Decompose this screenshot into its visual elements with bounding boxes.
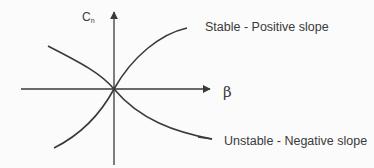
stable-curve xyxy=(54,28,187,148)
y-axis-label: Cn xyxy=(82,11,95,24)
x-axis-label: β xyxy=(223,85,232,100)
unstable-leader-line xyxy=(198,137,212,139)
stable-curve-label: Stable - Positive slope xyxy=(205,21,329,34)
unstable-curve xyxy=(48,46,212,139)
y-axis-label-main: C xyxy=(82,10,91,24)
y-axis-label-subscript: n xyxy=(91,17,95,24)
unstable-curve-label: Unstable - Negative slope xyxy=(224,135,367,148)
